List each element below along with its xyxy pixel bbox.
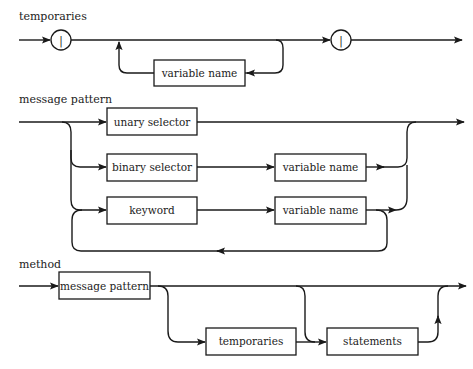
- unary-selector-box: unary selector: [107, 108, 197, 135]
- temporaries-branch: [158, 286, 205, 342]
- close-bar-symbol: |: [339, 34, 343, 48]
- statements-box: statements: [327, 328, 418, 355]
- keyword-merge: [396, 165, 407, 210]
- statements-return: [418, 316, 438, 342]
- message-pattern-diagram: message pattern unary selector binary se…: [19, 93, 464, 251]
- binary-variable-name-label: variable name: [282, 161, 359, 173]
- statements-merge: [438, 286, 448, 318]
- temporaries-label: temporaries: [219, 335, 284, 347]
- temporaries-title: temporaries: [19, 10, 87, 23]
- keyword-box: keyword: [107, 197, 197, 224]
- binary-selector-box: binary selector: [107, 154, 197, 181]
- loop-back-left: [119, 42, 154, 73]
- temporaries-diagram: temporaries | variable name |: [19, 10, 462, 86]
- keyword-branch: [71, 150, 106, 210]
- keyword-label: keyword: [129, 204, 175, 216]
- loop-back-right: [247, 40, 283, 73]
- open-bar-terminal: |: [51, 30, 71, 50]
- binary-variable-name-box: variable name: [275, 154, 366, 181]
- keyword-variable-name-box: variable name: [275, 197, 366, 224]
- statements-branch: [296, 286, 315, 342]
- syntax-diagram-canvas: temporaries | variable name | message pa…: [0, 0, 473, 369]
- binary-selector-label: binary selector: [112, 161, 193, 173]
- binary-branch: [62, 122, 106, 167]
- keyword-variable-name-label: variable name: [282, 204, 359, 216]
- method-diagram: method message pattern temporaries state…: [19, 258, 466, 355]
- unary-selector-label: unary selector: [114, 116, 192, 128]
- binary-merge: [380, 122, 416, 167]
- method-title: method: [19, 258, 61, 271]
- variable-name-label: variable name: [161, 67, 238, 79]
- variable-name-box: variable name: [154, 60, 245, 86]
- message-pattern-label: message pattern: [60, 280, 149, 292]
- statements-label: statements: [343, 335, 402, 347]
- open-bar-symbol: |: [59, 34, 63, 48]
- message-pattern-box: message pattern: [59, 272, 150, 299]
- close-bar-terminal: |: [331, 30, 351, 50]
- message-pattern-title: message pattern: [19, 93, 112, 106]
- temporaries-box: temporaries: [206, 328, 296, 355]
